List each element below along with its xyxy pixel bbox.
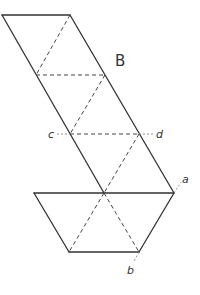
a-extension (174, 182, 181, 193)
trap-fold-left (69, 193, 104, 252)
fold-diagonal-2 (70, 75, 105, 134)
trapezoid-right-edge (139, 193, 174, 252)
label-b: b (127, 264, 134, 277)
trap-fold-right (104, 193, 139, 252)
b-extension (134, 252, 139, 261)
label-d: d (156, 128, 164, 141)
label-a: a (182, 173, 189, 186)
folding-net-diagram: B c d a b (0, 0, 200, 295)
fold-diagonal-3 (104, 134, 139, 193)
parallelogram-strip (2, 15, 174, 193)
strip-left-edge (2, 15, 104, 193)
fold-diagonal-1 (36, 15, 70, 75)
strip-fold-lines (36, 15, 139, 193)
trapezoid (34, 193, 174, 252)
label-B: B (115, 52, 125, 70)
trapezoid-fold-lines (69, 193, 139, 252)
trapezoid-left-edge (34, 193, 69, 252)
strip-right-edge (70, 15, 174, 193)
label-c: c (48, 128, 54, 141)
